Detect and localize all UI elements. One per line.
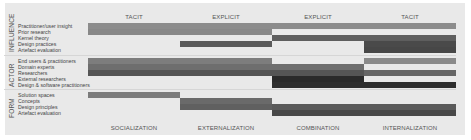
- phase-bar: [272, 110, 456, 116]
- phase-bar: [364, 47, 456, 53]
- row-label: Artefact evaluation: [18, 110, 61, 116]
- phase-bar: [180, 41, 272, 47]
- column-header-top: EXPLICIT: [272, 14, 364, 20]
- phase-bar: [88, 92, 180, 98]
- row-label: Design & software practitioners: [18, 82, 90, 88]
- group-label: FORM: [8, 98, 15, 118]
- group-divider: [4, 55, 456, 56]
- group-label: INFLUENCE: [8, 13, 15, 52]
- column-header-bottom: COMBINATION: [272, 125, 364, 131]
- column-header-top: EXPLICIT: [180, 14, 272, 20]
- phase-bar: [272, 82, 456, 88]
- column-header-bottom: EXTERNALIZATION: [180, 125, 272, 131]
- phase-bar: [364, 58, 456, 64]
- phase-bar: [180, 104, 272, 110]
- phase-bar: [364, 70, 456, 76]
- column-header-top: TACIT: [364, 14, 456, 20]
- column-header-top: TACIT: [88, 14, 180, 20]
- row-label: Artefact evaluation: [18, 47, 61, 53]
- column-header-bottom: SOCIALIZATION: [88, 125, 180, 131]
- column-header-bottom: INTERNALIZATION: [364, 125, 456, 131]
- group-divider: [4, 89, 456, 90]
- group-label: ACTOR: [8, 63, 15, 87]
- phase-bar: [88, 29, 272, 35]
